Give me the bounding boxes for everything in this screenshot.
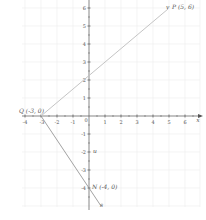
y-tick: -4	[81, 185, 86, 191]
y-tick: -1	[81, 131, 86, 137]
label-v: v	[166, 3, 170, 10]
y-tick: -2	[81, 149, 86, 155]
y-tick: -3	[81, 167, 86, 173]
x-tick: 3	[135, 119, 138, 125]
y-tick: 4	[83, 41, 86, 47]
axes	[22, 0, 201, 210]
x-tick: -2	[55, 119, 60, 125]
x-tick: 0	[84, 117, 87, 123]
x-tick: 4	[151, 119, 154, 125]
point-label-Q: Q (-3, 0)	[19, 107, 45, 114]
label-s: s	[100, 201, 103, 208]
x-tick-labels: -4 -3 -2 -1 0 1 2 3 4 5 6 x	[23, 116, 201, 125]
y-tick: 3	[83, 59, 86, 65]
y-tick: 6	[83, 5, 86, 11]
y-tick: 1	[83, 95, 86, 101]
x-tick: 5	[167, 119, 170, 125]
x-tick: 2	[119, 119, 122, 125]
x-tick: -1	[71, 119, 76, 125]
x-tick: 6	[183, 119, 186, 125]
x-tick: -4	[23, 119, 28, 125]
grid	[22, 0, 200, 207]
line-QN	[41, 116, 101, 206]
point-label-N: N (-4, 0)	[91, 183, 118, 190]
plot-svg: -4 -3 -2 -1 0 1 2 3 4 5 6 x 1 2 3 4 5 6 …	[0, 0, 206, 220]
line-QP	[41, 9, 168, 116]
y-tick: 5	[83, 23, 86, 29]
coordinate-plot: -4 -3 -2 -1 0 1 2 3 4 5 6 x 1 2 3 4 5 6 …	[0, 0, 206, 220]
point-label-P: P (5, 6)	[171, 3, 195, 10]
label-u: u	[93, 147, 97, 154]
y-tick-labels: 1 2 3 4 5 6 -1 -2 -3 -4	[81, 5, 86, 191]
x-tick: 1	[103, 119, 106, 125]
